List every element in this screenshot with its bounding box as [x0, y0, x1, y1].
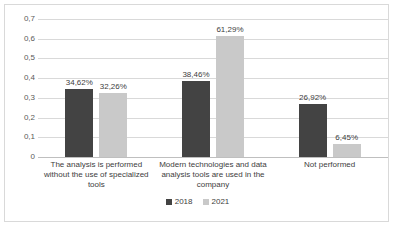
y-axis-tick-label: 0,6 — [9, 35, 35, 43]
y-axis-tick-label: 0 — [9, 153, 35, 161]
y-axis-tick-label: 0,3 — [9, 94, 35, 102]
legend-label: 2018 — [175, 198, 193, 206]
axis-baseline — [38, 157, 388, 158]
y-axis-tick-label: 0,5 — [9, 54, 35, 62]
y-axis-tick-label: 0,2 — [9, 114, 35, 122]
y-axis-tick-label: 0,1 — [9, 133, 35, 141]
bar-value-label: 6,45% — [327, 133, 367, 142]
bar-2018-cat3[interactable] — [299, 104, 327, 157]
legend-item-2021[interactable]: 2021 — [203, 198, 230, 206]
chart-legend: 20182021 — [5, 198, 390, 206]
category-axis: The analysis is performed without the us… — [38, 160, 388, 194]
y-axis: 00,10,20,30,40,50,60,7 — [5, 19, 35, 157]
bar-value-label: 61,29% — [210, 25, 250, 34]
category-label: The analysis is performed without the us… — [38, 160, 155, 190]
legend-label: 2021 — [212, 198, 230, 206]
legend-swatch-icon — [166, 199, 172, 205]
gridline — [38, 19, 388, 20]
bar-value-label: 32,26% — [93, 82, 133, 91]
bar-2021-cat3[interactable] — [333, 144, 361, 157]
y-axis-tick-label: 0,7 — [9, 15, 35, 23]
bar-2018-cat1[interactable] — [65, 89, 93, 157]
bar-2021-cat1[interactable] — [99, 93, 127, 157]
legend-swatch-icon — [203, 199, 209, 205]
bar-value-label: 38,46% — [176, 70, 216, 79]
gridline — [38, 39, 388, 40]
plot-area: 34,62%32,26%38,46%61,29%26,92%6,45% — [38, 19, 388, 157]
gridline — [38, 58, 388, 59]
y-axis-tick-label: 0,4 — [9, 74, 35, 82]
chart-container: 00,10,20,30,40,50,60,7 34,62%32,26%38,46… — [4, 4, 389, 222]
bar-2021-cat2[interactable] — [216, 36, 244, 157]
legend-item-2018[interactable]: 2018 — [166, 198, 193, 206]
bar-value-label: 26,92% — [293, 93, 333, 102]
category-label: Modern technologies and data analysis to… — [155, 160, 272, 190]
category-label: Not performed — [271, 160, 388, 170]
bar-2018-cat2[interactable] — [182, 81, 210, 157]
